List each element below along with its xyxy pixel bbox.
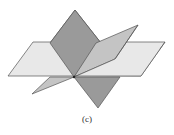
vertical-plane-lower xyxy=(74,77,120,108)
tilted-plane-lower xyxy=(32,77,74,94)
intersection-point xyxy=(73,76,75,78)
figure-caption: (c) xyxy=(0,114,174,124)
